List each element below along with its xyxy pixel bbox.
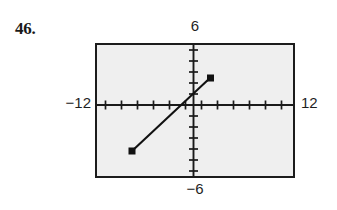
plotted-line-segment: [132, 78, 210, 151]
window-label-ymax: 6: [95, 17, 295, 34]
exercise-figure: 46.: [0, 0, 337, 210]
segment-endpoint-marker-right: [207, 75, 214, 82]
graphing-calculator-window: [95, 43, 295, 178]
segment-endpoint-marker-left: [129, 148, 136, 155]
window-label-xmin: −12: [43, 94, 91, 111]
problem-number: 46.: [15, 19, 36, 39]
window-label-xmax: 12: [301, 94, 337, 111]
graph-plot-area: [97, 45, 293, 176]
window-label-ymin: −6: [95, 180, 295, 197]
